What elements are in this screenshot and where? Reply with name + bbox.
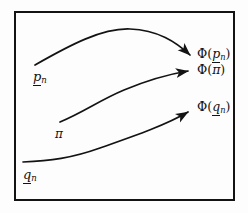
- arrow-upper: [35, 29, 190, 65]
- label-target-phi-pi: Φ(π): [197, 64, 225, 77]
- label-source-p-n-subscript: n: [41, 75, 47, 85]
- arrow-lower: [23, 112, 188, 162]
- figure-canvas: pn π qn Φ(pn) Φ(π) Φ(qn): [0, 0, 248, 213]
- label-source-pi: π: [55, 128, 63, 140]
- label-target-phi-p-n-suffix: ): [225, 46, 230, 61]
- label-target-phi-pi-suffix: ): [220, 62, 225, 77]
- label-target-phi-q-n-base: q: [212, 99, 220, 116]
- label-target-phi-q-n: Φ(qn): [197, 101, 230, 115]
- label-target-phi-p-n-prefix: Φ(: [197, 46, 212, 61]
- label-target-phi-q-n-suffix: ): [225, 99, 230, 114]
- label-target-phi-pi-prefix: Φ(: [197, 62, 212, 77]
- arrow-middle: [60, 71, 188, 122]
- label-source-q-n-subscript: n: [31, 173, 37, 183]
- label-target-phi-p-n-base: p: [212, 46, 220, 63]
- label-source-p-n: pn: [33, 70, 47, 85]
- label-target-phi-p-n: Φ(pn): [197, 48, 230, 62]
- label-target-phi-q-n-prefix: Φ(: [197, 99, 212, 114]
- label-source-q-n: qn: [23, 168, 37, 183]
- label-source-pi-base: π: [55, 127, 63, 141]
